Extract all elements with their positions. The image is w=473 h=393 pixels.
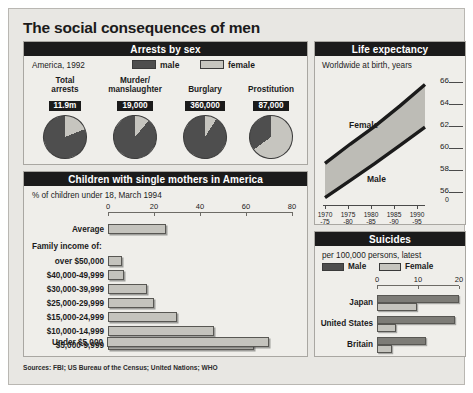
axis-tick-10: 10 [410, 275, 426, 284]
y-tick-58: 58 [440, 164, 449, 173]
arrests-caption: America, 1992 [32, 61, 85, 70]
infographic-frame: The social consequences of men Arrests b… [8, 8, 465, 385]
y-tick-60: 60 [440, 142, 449, 151]
bar-income [108, 284, 147, 294]
table-row: $40,000-49,999 [24, 270, 309, 281]
pie-prostitution: Prostitution 87,000 [238, 76, 304, 159]
panel-life-expectancy: Life expectancy Worldwide at birth, year… [314, 41, 466, 225]
table-row: $30,000-39,999 [24, 284, 309, 295]
bar-income [108, 270, 124, 280]
row-label: $25,000-29,999 [24, 298, 104, 309]
pie-value-badge: 360,000 [185, 101, 225, 111]
pie-title-line1: Murder/ [102, 76, 168, 85]
x-label-top: 1980 [364, 211, 379, 218]
suicides-caption: per 100,000 persons, latest [322, 251, 421, 260]
bar-female-britain [377, 345, 392, 353]
x-tick-mark [348, 205, 349, 209]
life-series-label-male: Male [367, 174, 386, 184]
row-label-united-states: United States [315, 319, 373, 328]
bar-male-united-states [377, 316, 455, 324]
y-tick-line [449, 170, 463, 171]
legend-label-male: male [160, 60, 179, 70]
x-label-top: 1975 [341, 211, 356, 218]
row-label: $15,000-24,999 [24, 312, 104, 323]
y-tick-62: 62 [440, 120, 449, 129]
axis-tick-20: 20 [144, 202, 164, 211]
x-tick-mark [371, 205, 372, 209]
pie-title-line1: Total [32, 76, 98, 85]
mothers-caption: % of children under 18, March 1994 [32, 191, 162, 200]
row-label: $40,000-49,999 [24, 270, 104, 281]
row-label: $10,000-14,999 [24, 326, 104, 337]
legend-label-female: Female [405, 262, 433, 271]
legend-swatch-female [200, 60, 224, 69]
bar-male-japan [377, 295, 459, 303]
panel-children-single-mothers: Children with single mothers in America … [23, 171, 308, 357]
bar-income [108, 298, 154, 308]
legend-swatch-female [379, 263, 401, 271]
arrests-heading: Arrests by sex [24, 42, 307, 56]
axis-tick-mark [459, 286, 460, 289]
infographic-page: The social consequences of men Arrests b… [0, 0, 473, 393]
axis-tick-mark [377, 286, 378, 289]
pie-value-badge: 19,000 [117, 101, 152, 111]
axis-tick-mark [246, 213, 247, 216]
table-row: $15,000-24,999 [24, 312, 309, 323]
pie-chart-graphic [104, 106, 166, 168]
axis-tick-40: 40 [190, 202, 210, 211]
y-tick-66: 66 [440, 76, 449, 85]
table-row: $10,000-14,999 [24, 326, 309, 337]
x-axis-line [323, 205, 425, 206]
axis-tick-mark [418, 286, 419, 289]
y-tick-line [449, 126, 463, 127]
x-tick-mark [325, 205, 326, 209]
pie-title-line2: arrests [32, 85, 98, 94]
pie-chart-graphic [36, 108, 93, 165]
axis-tick-mark [200, 213, 201, 216]
axis-tick-mark [292, 213, 293, 216]
bar-income [108, 326, 214, 336]
x-label-top: 1970 [318, 211, 333, 218]
suicides-heading: Suicides [315, 232, 465, 246]
table-row: Under $5,000 [23, 337, 308, 348]
life-expectancy-caption: Worldwide at birth, years [322, 61, 412, 70]
panel-suicides: Suicides per 100,000 persons, latest Mal… [314, 231, 466, 357]
y-tick-64: 64 [440, 98, 449, 107]
pie-chart-graphic [175, 107, 236, 168]
row-label: Under $5,000 [23, 337, 103, 348]
bar-average [108, 224, 166, 234]
pie-burglary: Burglary 360,000 [172, 76, 238, 159]
mothers-subheading: Family income of: [32, 242, 102, 251]
x-label-top: 1985 [387, 211, 402, 218]
axis-tick-0: 0 [98, 202, 118, 211]
axis-tick-60: 60 [236, 202, 256, 211]
x-tick-mark [394, 205, 395, 209]
legend-swatch-male [322, 263, 344, 271]
legend-label-female: female [228, 60, 255, 70]
x-label-bottom: -85 [366, 218, 376, 225]
panel-arrests-by-sex: Arrests by sex America, 1992 male female… [23, 41, 308, 165]
pie-chart-graphic [240, 106, 301, 167]
x-label-top: 1990 [410, 211, 425, 218]
row-label-britain: Britain [315, 340, 373, 349]
life-expectancy-heading: Life expectancy [315, 42, 465, 56]
bar-female-united-states [377, 324, 396, 332]
y-tick-line [449, 192, 463, 193]
life-expectancy-chart-graphic [323, 76, 427, 204]
y-tick-zero: 0 [445, 196, 449, 203]
axis-tick-20: 20 [451, 275, 467, 284]
pie-title-line1 [238, 76, 304, 85]
x-label-bottom: -95 [412, 218, 422, 225]
table-row: over $50,000 [24, 256, 309, 267]
row-label-japan: Japan [315, 298, 373, 307]
row-label: Average [24, 224, 104, 235]
y-tick-line [449, 82, 463, 83]
pie-title-line1 [172, 76, 238, 85]
bar-income [108, 256, 122, 266]
pie-title-line2: Burglary [172, 85, 238, 94]
life-series-label-female: Female [349, 120, 378, 130]
axis-tick-80: 80 [282, 202, 302, 211]
x-label-bottom: -80 [343, 218, 353, 225]
pie-total-arrests: Total arrests 11.9m [32, 76, 98, 159]
bar-income [108, 312, 177, 322]
